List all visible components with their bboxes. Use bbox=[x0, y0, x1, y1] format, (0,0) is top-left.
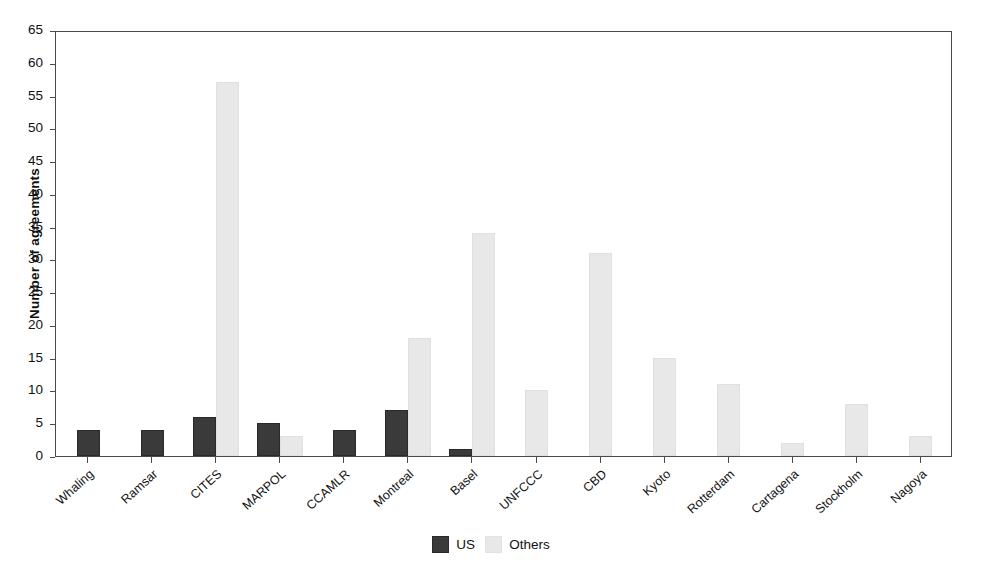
bar-group bbox=[633, 32, 697, 456]
y-axis-tick-label: 25 bbox=[3, 284, 43, 299]
y-axis-tick-label: 30 bbox=[3, 251, 43, 266]
bar-us-ramsar bbox=[141, 430, 164, 456]
y-axis-tick-label: 0 bbox=[3, 448, 43, 463]
x-axis-tick-label: Montreal bbox=[371, 467, 417, 510]
y-axis-tick-label: 5 bbox=[3, 415, 43, 430]
bar-us-basel bbox=[449, 449, 472, 456]
x-axis-tick-label: CBD bbox=[580, 467, 609, 495]
bar-group bbox=[569, 32, 633, 456]
legend-label: US bbox=[456, 537, 475, 552]
x-axis-tick-label: MARPOL bbox=[240, 467, 289, 513]
y-axis-tick-label: 60 bbox=[3, 55, 43, 70]
x-axis-tick-label: Nagoya bbox=[888, 467, 929, 506]
x-axis-tick-label: Ramsar bbox=[119, 467, 161, 507]
x-axis-tick-mark bbox=[600, 457, 601, 463]
x-axis-tick-label: Cartagena bbox=[748, 467, 801, 516]
bar-us-cites bbox=[193, 417, 216, 456]
x-axis-tick-label: CITES bbox=[188, 467, 225, 502]
y-axis-tick-label: 20 bbox=[3, 317, 43, 332]
x-axis-tick-mark bbox=[664, 457, 665, 463]
bar-others-basel bbox=[472, 233, 495, 456]
bar-us-ccamlr bbox=[333, 430, 356, 456]
x-axis-tick-mark bbox=[920, 457, 921, 463]
bar-group bbox=[825, 32, 889, 456]
y-axis-tick-label: 15 bbox=[3, 350, 43, 365]
bar-us-whaling bbox=[77, 430, 100, 456]
x-axis-tick-mark bbox=[856, 457, 857, 463]
bar-group bbox=[312, 32, 376, 456]
legend-label: Others bbox=[509, 537, 550, 552]
x-axis-tick-mark bbox=[215, 457, 216, 463]
x-axis-tick-mark bbox=[151, 457, 152, 463]
bar-group bbox=[505, 32, 569, 456]
y-axis-tick-label: 65 bbox=[3, 22, 43, 37]
bar-others-cartagena bbox=[781, 443, 804, 456]
bar-group bbox=[440, 32, 504, 456]
bar-others-stockholm bbox=[845, 404, 868, 456]
bar-group bbox=[56, 32, 120, 456]
x-axis-tick-mark bbox=[471, 457, 472, 463]
bar-others-montreal bbox=[408, 338, 431, 456]
bar-group bbox=[184, 32, 248, 456]
bar-group bbox=[376, 32, 440, 456]
y-axis-tick-label: 10 bbox=[3, 382, 43, 397]
chart-legend: USOthers bbox=[0, 536, 982, 553]
x-axis-tick-mark bbox=[407, 457, 408, 463]
x-axis-tick-mark bbox=[536, 457, 537, 463]
x-axis-tick-label: Whaling bbox=[53, 467, 96, 508]
x-axis-tick-mark bbox=[728, 457, 729, 463]
legend-item-us: US bbox=[432, 536, 475, 553]
bar-group bbox=[120, 32, 184, 456]
y-axis-tick-label: 50 bbox=[3, 120, 43, 135]
x-axis-tick-label: CCAMLR bbox=[304, 467, 353, 513]
bar-group bbox=[889, 32, 953, 456]
y-axis-tick-label: 45 bbox=[3, 153, 43, 168]
x-axis-tick-label: Stockholm bbox=[813, 467, 866, 516]
bar-us-marpol bbox=[257, 423, 280, 456]
bar-us-montreal bbox=[385, 410, 408, 456]
x-axis-tick-mark bbox=[343, 457, 344, 463]
legend-swatch-us bbox=[432, 536, 449, 553]
y-axis-tick-label: 35 bbox=[3, 219, 43, 234]
bar-group bbox=[248, 32, 312, 456]
legend-swatch-others bbox=[485, 536, 502, 553]
bar-group-container bbox=[56, 32, 951, 456]
bar-others-marpol bbox=[280, 436, 303, 456]
bar-others-nagoya bbox=[909, 436, 932, 456]
plot-area bbox=[55, 31, 952, 457]
x-axis-tick-label: Basel bbox=[448, 467, 481, 498]
legend-item-others: Others bbox=[485, 536, 550, 553]
bar-group bbox=[697, 32, 761, 456]
bar-others-cbd bbox=[589, 253, 612, 456]
x-axis-tick-mark bbox=[792, 457, 793, 463]
x-axis-tick-mark bbox=[279, 457, 280, 463]
bar-group bbox=[761, 32, 825, 456]
bar-others-unfccc bbox=[525, 390, 548, 456]
x-axis-tick-label: Rotterdam bbox=[684, 467, 737, 516]
bar-others-cites bbox=[216, 82, 239, 456]
x-axis-tick-label: UNFCCC bbox=[496, 467, 545, 513]
y-axis-tick-mark bbox=[50, 457, 55, 458]
bar-chart-figure: Number of agreements 0510152025303540455… bbox=[0, 0, 982, 588]
bar-others-kyoto bbox=[653, 358, 676, 456]
y-axis-tick-label: 40 bbox=[3, 186, 43, 201]
y-axis-tick-label: 55 bbox=[3, 88, 43, 103]
bar-others-rotterdam bbox=[717, 384, 740, 456]
x-axis-tick-mark bbox=[87, 457, 88, 463]
x-axis-tick-label: Kyoto bbox=[640, 467, 673, 499]
